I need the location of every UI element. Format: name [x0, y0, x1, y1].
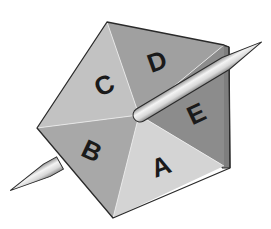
spinner-graphic: C D E B A: [0, 0, 271, 229]
spindle-lower: [7, 157, 64, 197]
spinner-diagram: C D E B A: [0, 0, 271, 229]
